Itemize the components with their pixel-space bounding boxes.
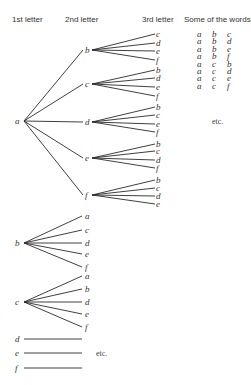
word-letter: c bbox=[212, 81, 216, 91]
node-c-f: f bbox=[85, 322, 89, 332]
edge bbox=[24, 121, 83, 122]
node-c-b: b bbox=[85, 284, 90, 294]
edge bbox=[92, 151, 155, 158]
node-a-e: e bbox=[85, 153, 89, 163]
edge bbox=[92, 180, 155, 195]
edge bbox=[24, 50, 83, 121]
edge bbox=[24, 276, 82, 302]
header-2nd-letter: 2nd letter bbox=[65, 15, 99, 24]
edge bbox=[24, 121, 83, 195]
edge bbox=[92, 78, 155, 84]
header-words: Some of the words bbox=[184, 15, 251, 24]
node-b-e: e bbox=[85, 249, 89, 259]
leaf-a-b-f: f bbox=[156, 55, 160, 65]
node-a-c: c bbox=[85, 79, 89, 89]
tree-root-a: abcdefcbdefdbcefebcdffbcde bbox=[15, 29, 161, 209]
node-b: b bbox=[15, 238, 20, 248]
edge bbox=[92, 188, 155, 195]
header-3rd-letter: 3rd letter bbox=[142, 15, 174, 24]
edge bbox=[24, 289, 82, 302]
node-c-a: a bbox=[85, 271, 90, 281]
edge bbox=[92, 144, 155, 158]
edge bbox=[92, 50, 155, 51]
node-a-d: d bbox=[85, 117, 90, 127]
edge bbox=[24, 243, 82, 267]
tree-root-c: cabdef bbox=[15, 271, 90, 332]
edge bbox=[92, 107, 155, 122]
edge bbox=[92, 195, 155, 196]
words-list: abcabdabeabfacbacdaceacf bbox=[197, 29, 232, 91]
edge bbox=[92, 43, 155, 50]
edge bbox=[92, 34, 155, 50]
node-a: a bbox=[15, 116, 20, 126]
node-c-d: d bbox=[85, 297, 90, 307]
node-a-f: f bbox=[85, 190, 89, 200]
node-c-e: e bbox=[85, 309, 89, 319]
edge bbox=[92, 195, 155, 204]
edge bbox=[92, 115, 155, 122]
edge bbox=[92, 50, 155, 60]
edge bbox=[24, 121, 83, 158]
edge bbox=[24, 216, 82, 243]
edge bbox=[24, 243, 82, 254]
node-f: f bbox=[15, 363, 19, 373]
tree-root-b: bacdef bbox=[15, 211, 90, 272]
words-etc: etc. bbox=[212, 117, 223, 126]
edge bbox=[24, 302, 82, 327]
tree-roots-def: def bbox=[15, 334, 82, 373]
node-e: e bbox=[15, 348, 19, 358]
tree-etc: etc. bbox=[96, 349, 107, 358]
edge bbox=[24, 302, 82, 314]
node-c: c bbox=[15, 297, 19, 307]
tree-diagram: 1st letter 2nd letter 3rd letter Some of… bbox=[0, 0, 251, 385]
node-d: d bbox=[15, 334, 20, 344]
word-letter: a bbox=[197, 81, 202, 91]
edge bbox=[24, 230, 82, 243]
node-b-c: c bbox=[85, 225, 89, 235]
node-b-d: d bbox=[85, 238, 90, 248]
header-1st-letter: 1st letter bbox=[12, 15, 43, 24]
leaf-a-f-e: e bbox=[156, 199, 160, 209]
node-a-b: b bbox=[85, 45, 90, 55]
leaf-a-c-f: f bbox=[156, 91, 160, 101]
node-b-a: a bbox=[85, 211, 90, 221]
edge bbox=[24, 84, 83, 121]
edge bbox=[92, 70, 155, 84]
